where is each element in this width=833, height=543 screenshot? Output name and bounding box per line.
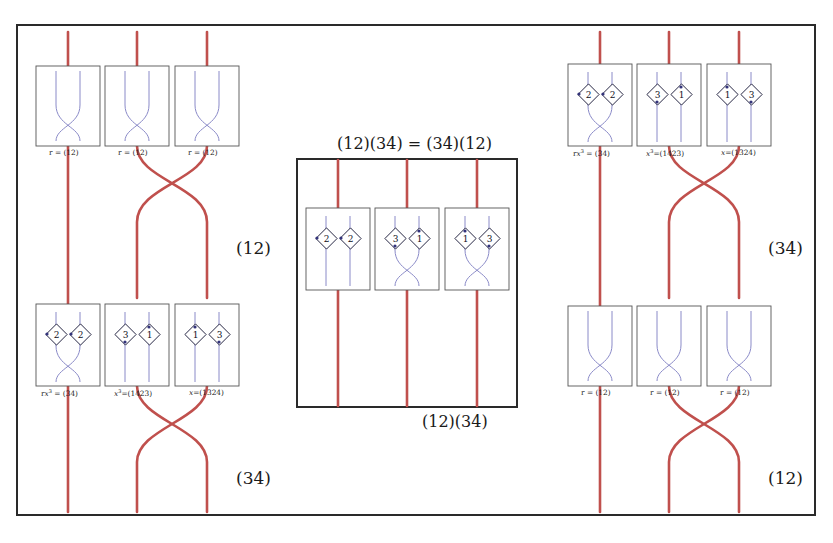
right-bottom-box-3-label: r = (12) <box>720 388 750 397</box>
left-top-box-2-label: r = (12) <box>118 148 148 157</box>
center-panel-caption: (12)(34) <box>422 412 488 431</box>
center-panel-frame <box>296 158 518 408</box>
right-bottom-box-2-label: r = (12) <box>650 388 680 397</box>
permutation-braid-figure: 2 2 3 1 <box>0 0 833 543</box>
left-top-box-1-label: r = (12) <box>49 148 79 157</box>
left-annotation-upper: (12) <box>236 238 271 258</box>
right-bottom-box-1-label: r = (12) <box>581 388 611 397</box>
left-bottom-box-3-label: x=(1324) <box>189 388 224 397</box>
left-bottom-box-2-label: x3=(1423) <box>114 388 152 398</box>
right-top-box-3-label: x=(1324) <box>721 148 756 157</box>
right-annotation-upper: (34) <box>768 238 803 258</box>
center-panel-title: (12)(34) = (34)(12) <box>337 134 492 153</box>
right-top-box-1-label: rx3 = (34) <box>573 148 610 158</box>
left-annotation-lower: (34) <box>236 468 271 488</box>
left-top-box-3-label: r = (12) <box>188 148 218 157</box>
left-bottom-box-1-label: rx3 = (34) <box>41 388 78 398</box>
right-top-box-2-label: x3=(1423) <box>646 148 684 158</box>
right-annotation-lower: (12) <box>768 468 803 488</box>
